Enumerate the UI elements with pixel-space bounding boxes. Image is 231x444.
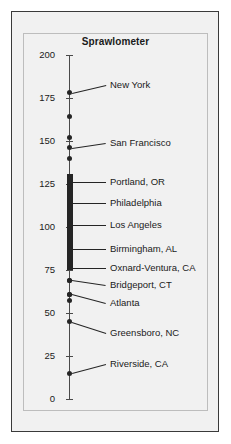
leader-line xyxy=(72,182,106,183)
city-label: Philadelphia xyxy=(110,198,162,208)
leader-line xyxy=(72,225,106,226)
axis-tick-label: 150 xyxy=(21,136,55,146)
city-label: Los Angeles xyxy=(110,220,162,230)
city-label: Atlanta xyxy=(110,298,140,308)
axis-tick-label: 125 xyxy=(21,179,55,189)
city-label: San Francisco xyxy=(110,138,171,148)
axis-tick-mark xyxy=(66,356,73,357)
leader-line xyxy=(72,249,106,250)
page-title: Sprawlometer xyxy=(23,36,208,47)
city-label: Bridgeport, CT xyxy=(110,280,172,290)
city-label: Oxnard-Ventura, CA xyxy=(110,263,196,273)
city-label: Riverside, CA xyxy=(110,359,168,369)
axis-tick-label: 25 xyxy=(21,351,55,361)
city-label: Portland, OR xyxy=(110,177,165,187)
axis-tick-mark xyxy=(66,270,73,271)
axis-tick-mark xyxy=(66,313,73,314)
axis-tick-label: 50 xyxy=(21,308,55,318)
data-point xyxy=(67,156,72,161)
chart-page: Sprawlometer 2001751501251007550250 New … xyxy=(0,0,231,444)
axis-tick-label: 75 xyxy=(21,265,55,275)
axis-tick-mark xyxy=(66,98,73,99)
city-label: Greensboro, NC xyxy=(110,328,179,338)
city-label: New York xyxy=(110,80,150,90)
leader-line xyxy=(72,203,106,204)
leader-line xyxy=(72,268,106,269)
axis-tick-mark xyxy=(66,141,73,142)
axis-tick-label: 100 xyxy=(21,222,55,232)
axis-tick-label: 175 xyxy=(21,93,55,103)
axis-tick-label: 0 xyxy=(21,394,55,404)
axis-tick-label: 200 xyxy=(21,50,55,60)
dense-point-cluster xyxy=(67,174,73,270)
axis-tick-mark xyxy=(66,55,73,56)
city-label: Birmingham, AL xyxy=(110,244,177,254)
axis-tick-mark xyxy=(66,399,73,400)
